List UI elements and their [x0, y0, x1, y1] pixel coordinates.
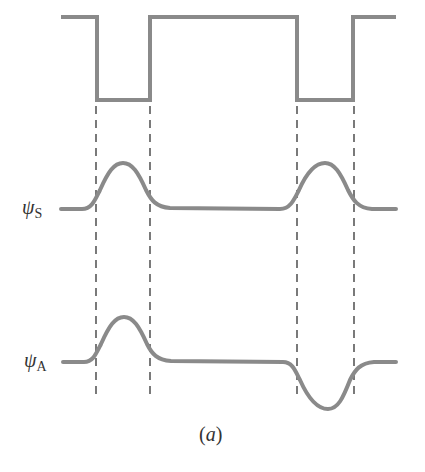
psi-s-curve — [61, 163, 396, 209]
caption-text: (a) — [199, 423, 222, 445]
wavefunction-diagram — [0, 0, 425, 472]
psi-a-symbol: ψ — [24, 349, 36, 371]
square-wave — [61, 17, 396, 100]
figure-caption: (a) — [199, 423, 222, 446]
psi-s-subscript: S — [34, 206, 42, 221]
psi-s-label: ψS — [22, 196, 42, 222]
psi-a-subscript: A — [36, 359, 46, 374]
psi-a-label: ψA — [24, 349, 47, 375]
dashed-guides — [96, 106, 354, 400]
psi-a-curve — [63, 317, 396, 409]
psi-s-symbol: ψ — [22, 196, 34, 218]
